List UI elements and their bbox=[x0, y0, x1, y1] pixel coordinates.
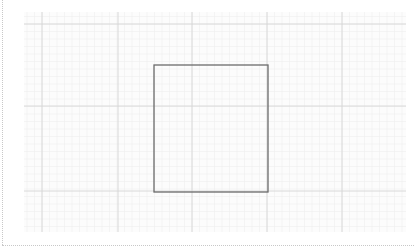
canvas-background bbox=[24, 12, 406, 232]
drawing-canvas[interactable] bbox=[24, 12, 406, 232]
page-boundary-bottom bbox=[2, 245, 414, 246]
page-boundary-left bbox=[2, 0, 3, 245]
